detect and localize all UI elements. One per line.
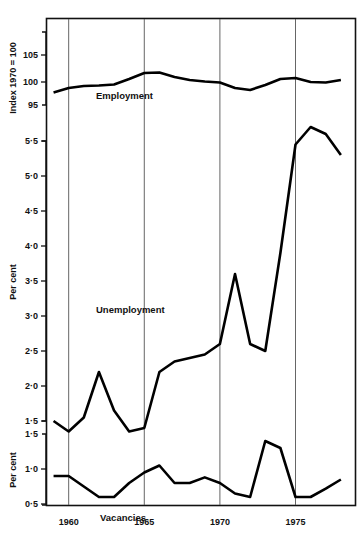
figure-container: 105 100 95 Index 1970 = 100 Employment 5… xyxy=(0,0,364,547)
vacancies-axis-title: Per cent xyxy=(8,452,18,488)
xtick-label-1960: 1960 xyxy=(59,517,79,527)
employment-y-spine xyxy=(42,32,46,105)
unemployment-ytick-5-5: 5·5 xyxy=(25,136,38,146)
unemployment-ytick-4-5: 4·5 xyxy=(25,206,38,216)
vacancies-dataline xyxy=(54,441,341,497)
panel-unemployment: 5·5 5·0 4·5 4·0 3·5 3·0 2·5 2·0 1·5 Per … xyxy=(8,127,341,432)
vacancies-ytick-0-5: 0·5 xyxy=(25,499,38,509)
xaxis-labels-group: 1960196519701975 xyxy=(59,517,306,527)
unemployment-series-label: Unemployment xyxy=(96,304,165,315)
employment-series-label: Employment xyxy=(96,90,154,101)
xtick-label-1970: 1970 xyxy=(210,517,230,527)
xtick-label-1975: 1975 xyxy=(285,517,305,527)
unemployment-ytick-5-0: 5·0 xyxy=(25,171,38,181)
unemployment-dataline xyxy=(54,127,341,432)
unemployment-ytick-2-0: 2·0 xyxy=(25,381,38,391)
vacancies-ytick-1-5: 1·5 xyxy=(25,429,38,439)
unemployment-tickmarks xyxy=(41,141,46,421)
unemployment-ytick-3-0: 3·0 xyxy=(25,311,38,321)
vacancies-ytick-1-0: 1·0 xyxy=(25,464,38,474)
unemployment-ytick-4-0: 4·0 xyxy=(25,241,38,251)
panel-vacancies: 1·5 1·0 0·5 Per cent Vacancies xyxy=(8,429,341,523)
employment-ytick-100: 100 xyxy=(23,77,38,87)
chart-svg: 105 100 95 Index 1970 = 100 Employment 5… xyxy=(0,0,364,547)
unemployment-axis-title: Per cent xyxy=(8,264,18,300)
unemployment-ytick-3-5: 3·5 xyxy=(25,276,38,286)
chart-frame xyxy=(47,19,356,506)
unemployment-ytick-2-5: 2·5 xyxy=(25,346,38,356)
employment-ytick-105: 105 xyxy=(23,50,38,60)
employment-ytick-95: 95 xyxy=(28,100,38,110)
panel-employment: 105 100 95 Index 1970 = 100 Employment xyxy=(8,32,341,114)
xtick-label-1965: 1965 xyxy=(134,517,154,527)
employment-axis-title: Index 1970 = 100 xyxy=(8,42,18,113)
unemployment-ytick-1-5: 1·5 xyxy=(25,416,38,426)
